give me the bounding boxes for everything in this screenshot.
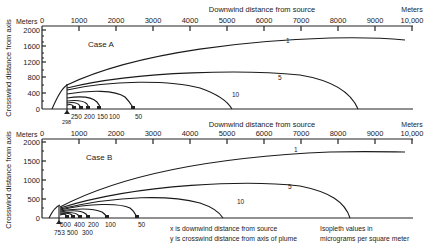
meters-label-right-a: Meters	[401, 6, 423, 13]
svg-text:5000: 5000	[219, 16, 236, 25]
source-label-b: 753	[54, 229, 65, 236]
source-label-a: 298	[62, 119, 71, 125]
isopleth-chart: Downwind distance from source Meters Met…	[0, 0, 431, 250]
svg-text:100: 100	[109, 113, 120, 120]
svg-text:4000: 4000	[182, 129, 199, 138]
svg-text:1600: 1600	[23, 42, 40, 51]
svg-text:10: 10	[237, 198, 245, 205]
svg-text:3000: 3000	[145, 129, 162, 138]
isopleths-b	[49, 152, 405, 222]
isopleth-a-10	[67, 82, 232, 109]
meters-label-left-b: Meters	[16, 131, 38, 138]
isopleth-labels-a: 1 5 10 250 200 150 100 50 298	[62, 37, 290, 125]
x-ticks-b	[79, 139, 412, 144]
meters-label-left-a: Meters	[16, 18, 38, 25]
svg-text:2000: 2000	[23, 26, 40, 35]
y-axis-title-a: Crosswind distance from axis	[4, 19, 13, 117]
meters-label-right-b: Meters	[401, 121, 423, 128]
isopleth-b-back	[49, 205, 60, 218]
panel-case-a: Downwind distance from source Meters Met…	[4, 5, 423, 125]
svg-text:0: 0	[36, 214, 40, 223]
isopleth-a-back	[52, 85, 67, 109]
svg-text:6000: 6000	[256, 129, 273, 138]
x-tick-labels-b: 0 1000 2000 3000 4000 5000 6000 7000 800…	[40, 129, 424, 138]
svg-text:300: 300	[82, 229, 93, 236]
svg-text:10: 10	[232, 91, 240, 98]
svg-text:7000: 7000	[293, 129, 310, 138]
svg-text:0: 0	[40, 16, 44, 25]
svg-text:8000: 8000	[330, 16, 347, 25]
svg-text:7000: 7000	[293, 16, 310, 25]
svg-text:1000: 1000	[71, 16, 88, 25]
x-axis-title-a: Downwind distance from source	[209, 5, 315, 14]
caption-iso-2: micrograms per square meter	[320, 235, 410, 243]
svg-text:0: 0	[40, 129, 44, 138]
svg-text:5000: 5000	[219, 129, 236, 138]
svg-text:5: 5	[288, 183, 292, 190]
case-a-label: Case A	[88, 40, 114, 49]
svg-text:200: 200	[84, 113, 95, 120]
svg-text:8000: 8000	[330, 129, 347, 138]
svg-text:50: 50	[138, 221, 146, 228]
svg-text:600: 600	[60, 221, 71, 228]
svg-text:5: 5	[278, 74, 282, 81]
svg-text:1: 1	[294, 146, 298, 153]
case-b-label: Case B	[86, 153, 112, 162]
svg-text:9000: 9000	[367, 129, 384, 138]
svg-text:200: 200	[88, 221, 99, 228]
svg-text:150: 150	[97, 113, 108, 120]
y-axis-title-b: Crosswind distance from axis	[4, 131, 13, 229]
isopleth-a-1	[67, 38, 405, 85]
caption-iso-1: Isopleth values in	[320, 225, 373, 233]
svg-text:1000: 1000	[71, 129, 88, 138]
svg-text:4000: 4000	[182, 16, 199, 25]
svg-text:400: 400	[27, 89, 40, 98]
svg-text:2000: 2000	[108, 129, 125, 138]
svg-text:100: 100	[105, 221, 116, 228]
x-axis-title-b: Downwind distance from source	[209, 120, 315, 129]
svg-text:400: 400	[74, 221, 85, 228]
isopleth-a-5	[67, 72, 358, 109]
svg-text:2000: 2000	[108, 16, 125, 25]
svg-text:500: 500	[27, 195, 40, 204]
panel-case-b: Downwind distance from source Meters Met…	[4, 120, 423, 236]
svg-text:1200: 1200	[23, 58, 40, 67]
svg-text:6000: 6000	[256, 16, 273, 25]
x-ticks-a	[79, 26, 412, 31]
svg-text:1: 1	[286, 37, 290, 44]
caption-x-def: x is downwind distance from source	[170, 225, 278, 232]
y-tick-labels-a: 2000 1600 1200 800 400 0	[23, 26, 40, 114]
caption: x is downwind distance from source y is …	[170, 225, 410, 243]
svg-text:500: 500	[67, 229, 78, 236]
svg-text:9000: 9000	[367, 16, 384, 25]
svg-text:10,000: 10,000	[401, 16, 424, 25]
svg-text:0: 0	[36, 105, 40, 114]
svg-text:50: 50	[135, 113, 143, 120]
svg-text:3000: 3000	[145, 16, 162, 25]
svg-text:250: 250	[71, 113, 82, 120]
x-tick-labels-a: 0 1000 2000 3000 4000 5000 6000 7000 800…	[40, 16, 424, 25]
svg-text:1500: 1500	[23, 157, 40, 166]
svg-text:800: 800	[27, 73, 40, 82]
svg-text:1000: 1000	[23, 176, 40, 185]
caption-y-def: y is crosswind distance from axis of plu…	[170, 235, 297, 243]
y-tick-labels-b: 2000 1500 1000 500 0	[23, 138, 40, 223]
svg-text:10,000: 10,000	[401, 129, 424, 138]
svg-text:2000: 2000	[23, 138, 40, 147]
